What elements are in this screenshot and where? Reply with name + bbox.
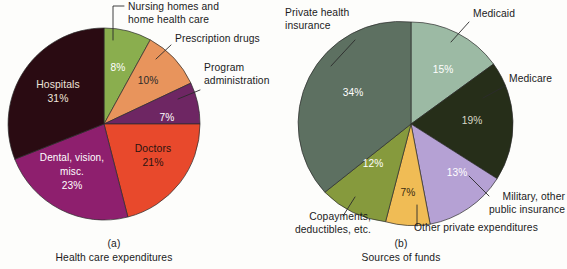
callout-nursing-homes: Nursing homes and home health care (128, 1, 219, 26)
callout-military-public-insurance-line2: public insurance (443, 204, 565, 217)
callout-nursing-homes-line1: Nursing homes and (128, 1, 219, 14)
slice-label-hospitals-pct: 31% (47, 93, 68, 104)
callout-military-public-insurance-line1: Military, other (443, 191, 565, 204)
slice-label-dental-line2: misc. (60, 166, 84, 177)
callout-medicaid-text: Medicaid (473, 8, 515, 21)
slice-label-hospitals-name: Hospitals (36, 79, 80, 90)
callout-medicare: Medicare (509, 73, 552, 86)
slice-label-nursing-homes: 8% (111, 62, 126, 73)
slice-label-dental-pct: 23% (62, 180, 83, 191)
slice-label-program-administration: 7% (160, 112, 175, 123)
slice-label-doctors-pct: 21% (142, 157, 163, 168)
panel-a-letter: (a) (0, 238, 256, 249)
callout-program-administration-line2: administration (204, 75, 270, 88)
callout-copayments-deductibles-line1: Copayments, (255, 211, 371, 224)
callout-medicare-text: Medicare (509, 73, 552, 86)
slice-label-prescription-drugs: 10% (138, 75, 159, 86)
callout-military-public-insurance: Military, other public insurance (443, 191, 565, 216)
panel-a-caption: Health care expenditures (0, 252, 256, 263)
slice-label-medicare: 19% (462, 115, 483, 126)
callout-other-private-expenditures: Other private expenditures (414, 222, 538, 235)
figure-two-pie-charts: 8% 10% 7% Doctors 21% Dental, vision, mi… (0, 0, 567, 269)
slice-label-medicaid: 15% (433, 64, 454, 75)
pie-a-slices (8, 28, 200, 220)
callout-prescription-drugs: Prescription drugs (175, 33, 260, 46)
slice-label-copayments-deductibles: 12% (363, 158, 384, 169)
callout-medicaid: Medicaid (473, 8, 515, 21)
panel-b-letter: (b) (259, 238, 543, 249)
slice-label-other-private-expenditures: 7% (401, 187, 416, 198)
callout-other-private-expenditures-text: Other private expenditures (414, 222, 538, 235)
slice-label-private-health-insurance: 34% (343, 87, 364, 98)
callout-program-administration-line1: Program (204, 62, 270, 75)
slice-label-doctors-name: Doctors (135, 143, 172, 154)
slice-label-dental-line1: Dental, vision, (40, 152, 104, 163)
callout-nursing-homes-line2: home health care (128, 14, 219, 27)
panel-b-caption: Sources of funds (259, 252, 543, 263)
callout-program-administration: Program administration (204, 62, 270, 87)
slice-label-military-public-insurance: 13% (447, 167, 468, 178)
callout-prescription-drugs-text: Prescription drugs (175, 33, 260, 46)
callout-private-health-insurance-line2: insurance (285, 20, 349, 33)
callout-private-health-insurance: Private health insurance (285, 7, 349, 32)
callout-copayments-deductibles: Copayments, deductibles, etc. (255, 211, 371, 236)
callout-private-health-insurance-line1: Private health (285, 7, 349, 20)
panel-sources-of-funds: 15% 19% 13% 7% 12% 34% Private health in… (283, 0, 567, 269)
panel-health-care-expenditures: 8% 10% 7% Doctors 21% Dental, vision, mi… (0, 0, 284, 269)
callout-copayments-deductibles-line2: deductibles, etc. (255, 224, 371, 237)
